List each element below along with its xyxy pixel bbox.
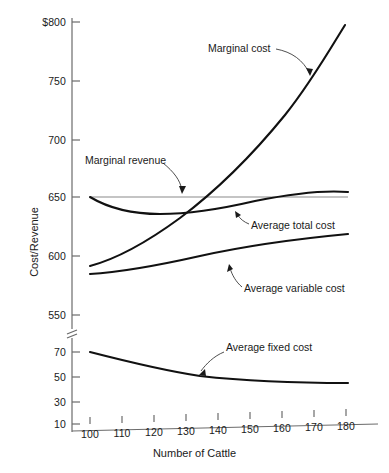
average-variable-cost-curve [90,234,348,274]
x-tick-label-180: 180 [337,420,355,432]
y-tick-marks [72,22,80,424]
x-tick-label-170: 170 [305,421,323,433]
y-tick-label-10: 10 [22,418,66,430]
marginal-revenue-arrowhead [179,186,186,194]
y-tick-label-550: 550 [22,309,66,321]
average-total-cost-curve [90,191,348,214]
marginal-cost-leader [276,49,310,74]
y-axis-title: Cost/Revenue [28,182,40,302]
x-tick-label-160: 160 [273,422,291,434]
average-total-cost-arrowhead [235,211,241,218]
chart-figure: $800 750 700 650 600 550 70 50 30 10 100… [0,0,389,473]
y-axis-break-mark-bottom [67,334,77,338]
x-tick-label-140: 140 [209,424,227,436]
y-axis-break-mark-top [67,330,77,334]
marginal-cost-arrowhead [306,68,313,76]
x-tick-label-120: 120 [145,426,163,438]
y-tick-label-30: 30 [22,396,66,408]
x-tick-label-150: 150 [241,423,259,435]
annotation-marginal-cost: Marginal cost [208,42,270,54]
annotation-average-fixed-cost: Average fixed cost [226,341,312,353]
y-tick-label-700: 700 [22,134,66,146]
y-tick-label-750: 750 [22,75,66,87]
x-tick-label-130: 130 [177,425,195,437]
annotation-average-total-cost: Average total cost [251,219,335,231]
x-tick-label-110: 110 [113,427,130,439]
annotation-average-variable-cost: Average variable cost [244,282,345,294]
average-variable-cost-leader [230,268,242,287]
x-tick-label-100: 100 [81,428,99,440]
x-axis-title: Number of Cattle [0,447,389,459]
y-tick-label-70: 70 [22,346,66,358]
average-fixed-cost-leader [201,352,224,371]
average-variable-cost-arrowhead [227,264,233,272]
y-tick-label-800: $800 [22,16,66,28]
average-fixed-cost-arrowhead [199,369,206,376]
annotation-marginal-revenue: Marginal revenue [85,154,166,166]
marginal-revenue-leader [163,163,182,190]
average-fixed-cost-curve [90,352,348,383]
y-tick-label-50: 50 [22,371,66,383]
